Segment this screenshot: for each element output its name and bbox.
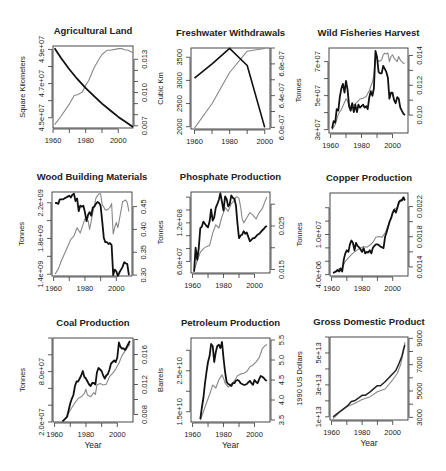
right-y-axis: 0.0070.0100.013	[134, 50, 149, 135]
x-tick-label: 2000	[110, 136, 127, 145]
right-tick-label: 5.5	[277, 335, 286, 345]
series-line-per-capita-right-axis	[55, 194, 129, 276]
panel-title: Phosphate Production	[180, 171, 282, 182]
left-y-axis: 6.0e+071.2e+08	[175, 197, 190, 275]
right-tick-label: 0.40	[139, 222, 148, 237]
left-tick-label: 4.9e+07	[37, 36, 46, 63]
panel-title: Freshwater Withdrawals	[176, 27, 285, 38]
panel-gross-domestic-product: Gross Domestic Product196019802000Year1e…	[295, 316, 426, 448]
left-y-axis: 1.4e+091.8e+092.2e+09	[36, 189, 51, 288]
x-axis: 196019802000	[322, 134, 401, 150]
right-y-axis: 0.0080.0120.016	[134, 340, 149, 424]
y-axis-label: Square Kilometers	[18, 56, 27, 118]
right-y-axis: 6.0e-076.4e-076.8e-07	[271, 48, 286, 140]
right-y-axis: 0.0100.0120.014	[409, 46, 424, 124]
left-tick-label: 4.0e+06	[314, 261, 323, 288]
series-line-per-capita-right-axis	[333, 198, 405, 274]
left-tick-label: 2.5e+10	[175, 357, 184, 384]
plot-frame	[53, 46, 133, 128]
x-axis: 196019802000	[46, 423, 125, 439]
left-tick-label: 7e+07	[313, 51, 322, 72]
x-tick-label: 2000	[108, 284, 125, 293]
left-tick-label: 3e+07	[313, 119, 322, 140]
left-tick-label: 4.7e+07	[37, 70, 46, 97]
panel-agricultural-land: Agricultural Land1960198020004.5e+074.7e…	[18, 25, 149, 145]
panel-wood-building-materials: Wood Building Materials1960198020001.4e+…	[17, 171, 148, 293]
x-axis: 196019802000	[184, 423, 263, 439]
x-tick-label: 1960	[323, 284, 340, 293]
series-line-total-left-axis	[55, 194, 129, 274]
right-tick-label: 0.35	[139, 245, 148, 260]
x-axis: 196019802000	[184, 274, 263, 290]
right-y-axis: 0.300.350.400.45	[133, 199, 148, 282]
left-tick-label: 1.4e+09	[36, 261, 45, 288]
series-line-per-capita-right-axis	[333, 342, 405, 418]
x-tick-label: 1980	[77, 284, 94, 293]
panel-copper-production: Copper Production1960198020004.0e+061.0e…	[295, 172, 424, 293]
plot-frame	[52, 192, 132, 276]
y-axis-label: Barrels	[156, 368, 165, 392]
x-tick-label: 1980	[221, 137, 238, 146]
right-tick-label: 0.30	[139, 268, 148, 283]
right-y-axis: 3000500070009000	[409, 330, 424, 426]
right-y-axis: 0.00140.00180.0022	[409, 195, 424, 278]
x-tick-label: 1980	[353, 141, 370, 150]
left-tick-label: 2.2e+09	[36, 189, 45, 216]
y-axis-label: Tonnes	[294, 78, 303, 102]
right-tick-label: 0.008	[140, 405, 149, 424]
right-tick-label: 0.0018	[415, 225, 424, 248]
plot-frame	[330, 337, 408, 420]
right-tick-label: 0.010	[415, 106, 424, 125]
panel-title: Petroleum Production	[181, 317, 280, 328]
x-tick-label: 1980	[354, 284, 371, 293]
panel-title: Wood Building Materials	[37, 171, 148, 182]
x-axis: 196019802000	[45, 277, 124, 293]
right-tick-label: 0.007	[140, 116, 149, 135]
right-tick-label: 0.010	[140, 83, 149, 102]
x-tick-label: 1960	[46, 430, 63, 439]
x-axis: 196019802000	[323, 421, 401, 437]
x-tick-label: 1960	[45, 284, 62, 293]
panel-phosphate-production: Phosphate Production1960198020006.0e+071…	[156, 171, 286, 290]
x-tick-label: 1980	[77, 136, 94, 145]
panel-title: Gross Domestic Product	[313, 316, 425, 327]
left-y-axis: 3e+075e+077e+07	[313, 51, 328, 140]
right-tick-label: 9000	[415, 330, 424, 347]
series-line-per-capita-right-axis	[195, 48, 265, 127]
panel-coal-production: Coal Production196019802000Year2.0e+078.…	[18, 317, 149, 450]
panel-title: Wild Fisheries Harvest	[318, 27, 421, 38]
x-tick-label: 1980	[78, 430, 95, 439]
left-tick-label: 8.0e+07	[37, 358, 46, 385]
right-tick-label: 0.0022	[415, 195, 424, 218]
right-tick-label: 0.025	[277, 217, 286, 236]
x-tick-label: 1960	[186, 137, 203, 146]
panel-freshwater-withdrawals: Freshwater Withdrawals196019802000200025…	[156, 27, 286, 146]
right-y-axis: 3.54.04.55.05.5	[271, 335, 286, 425]
right-tick-label: 6.8e-07	[277, 51, 286, 76]
right-tick-label: 6.4e-07	[277, 83, 286, 108]
right-tick-label: 0.0014	[415, 255, 424, 278]
right-tick-label: 0.016	[140, 345, 149, 364]
left-tick-label: 1.2e+08	[175, 209, 184, 236]
panel-title: Copper Production	[326, 172, 412, 183]
right-tick-label: 0.013	[140, 50, 149, 69]
x-tick-label: 1960	[45, 136, 62, 145]
x-tick-label: 1960	[323, 428, 340, 437]
left-tick-label: 5e+13	[314, 342, 323, 363]
plot-frame	[53, 338, 133, 422]
left-tick-label: 4.5e+07	[37, 104, 46, 131]
series-line-per-capita-right-axis	[200, 342, 267, 419]
y-axis-label: Tonnes	[17, 222, 26, 246]
right-tick-label: 0.012	[140, 375, 149, 394]
x-tick-label: 2000	[246, 430, 263, 439]
left-tick-label: 1.5e+10	[175, 398, 184, 425]
y-axis-label: Tonnes	[18, 368, 27, 392]
y-axis-label: 1990 US Dollars	[295, 351, 304, 406]
x-tick-label: 2000	[109, 430, 126, 439]
x-tick-label: 2000	[384, 428, 401, 437]
right-tick-label: 5.0	[277, 355, 286, 365]
right-tick-label: 0.012	[415, 76, 424, 95]
right-tick-label: 0.45	[139, 199, 148, 214]
series-line-per-capita-right-axis	[332, 51, 405, 129]
right-tick-label: 0.014	[415, 46, 424, 65]
